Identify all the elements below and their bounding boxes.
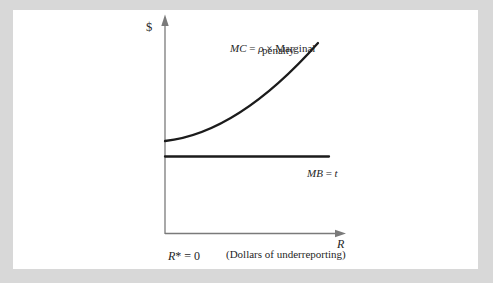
mb-label-equals: = [323,167,335,179]
mb-line-label: MB = t [296,157,338,190]
mb-label-var: MB [307,167,323,179]
origin-label-rest: = 0 [181,249,200,263]
origin-label: R* = 0 [156,238,200,274]
y-axis-arrowhead-icon [161,15,168,27]
mc-curve-label-line2: penalty [262,45,294,56]
mb-label-value: t [335,167,338,179]
x-axis-sublabel: (Dollars of underreporting) [226,249,346,260]
y-axis-label: $ [146,21,152,34]
figure-page: $ MC = ρ × Marginal penalty MB = t R* = … [0,0,493,283]
mc-label-equals: = [247,42,259,54]
mc-label-var: MC [230,42,247,54]
